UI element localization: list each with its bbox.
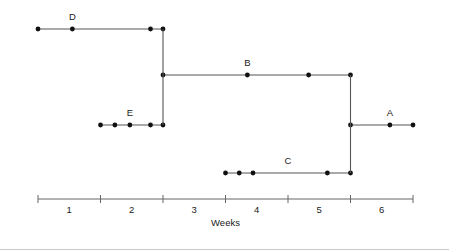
series-c[interactable]: [223, 171, 353, 176]
network-activity-chart: DBEAC123456Weeks: [0, 0, 449, 250]
x-axis-tick-label-6: 6: [379, 204, 384, 215]
series-b[interactable]: [161, 73, 353, 78]
data-point-c-2[interactable]: [251, 171, 256, 176]
x-axis-tick-label-1: 1: [67, 204, 72, 215]
series-group: [36, 27, 416, 176]
x-axis: 123456: [38, 195, 413, 215]
data-point-c-0[interactable]: [223, 171, 228, 176]
data-point-e-0[interactable]: [98, 123, 103, 128]
series-label-b: B: [244, 57, 250, 68]
series-label-c: C: [285, 155, 292, 166]
x-axis-tick-label-2: 2: [129, 204, 134, 215]
series-label-d: D: [69, 11, 76, 22]
series-label-a: A: [387, 107, 394, 118]
x-axis-title: Weeks: [211, 217, 240, 228]
data-point-c-1[interactable]: [237, 171, 242, 176]
data-point-e-2[interactable]: [127, 123, 132, 128]
series-e[interactable]: [98, 123, 165, 128]
data-point-b-2[interactable]: [306, 73, 311, 78]
data-point-d-1[interactable]: [70, 27, 75, 32]
data-point-b-1[interactable]: [245, 73, 250, 78]
data-point-e-3[interactable]: [148, 123, 153, 128]
series-a[interactable]: [348, 123, 415, 128]
data-point-e-1[interactable]: [112, 123, 117, 128]
series-d[interactable]: [36, 27, 166, 32]
data-point-a-2[interactable]: [411, 123, 416, 128]
data-point-a-1[interactable]: [387, 123, 392, 128]
x-axis-tick-label-4: 4: [254, 204, 259, 215]
data-point-d-0[interactable]: [36, 27, 41, 32]
series-label-e: E: [127, 107, 133, 118]
x-axis-tick-label-5: 5: [317, 204, 322, 215]
connector-group: [163, 29, 351, 173]
x-axis-tick-label-3: 3: [192, 204, 197, 215]
chart-container: DBEAC123456Weeks: [0, 0, 449, 250]
data-point-c-3[interactable]: [325, 171, 330, 176]
data-point-d-2[interactable]: [148, 27, 153, 32]
annotation-group: DBEAC: [69, 11, 394, 166]
